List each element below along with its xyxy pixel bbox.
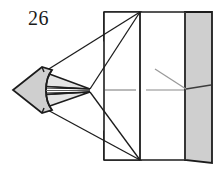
cylinder-white-panel	[104, 12, 185, 160]
nose-cone-group	[13, 67, 90, 113]
figure-canvas: 26	[0, 0, 221, 177]
technical-line-drawing	[0, 0, 221, 177]
